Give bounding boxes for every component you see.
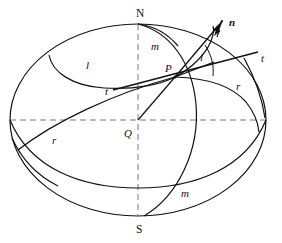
curve-l-left-arc [49,55,175,88]
curve-r-right-arc [175,77,259,132]
label-tangent-t-left: t [105,86,108,97]
point-P-marker [173,75,176,78]
label-curve-r-left: r [52,135,56,146]
sphere-right-rim-detail [244,58,265,118]
sphere-diagram-svg [0,0,282,243]
label-meridian-m-bottom: m [181,188,189,199]
curve-r-left-arc [18,77,175,150]
label-tangent-t-right: t [261,53,264,64]
normal-vector-n-shaft [175,25,219,77]
label-north-pole: N [136,8,144,20]
label-centre-Q: Q [124,128,132,139]
label-curve-l-left: l [86,60,89,71]
label-surface-point-P: P [165,63,172,74]
label-normal-vector-n: n [229,17,235,28]
label-south-pole: S [136,224,142,236]
label-curve-r-right: r [236,81,240,92]
label-curve-l-right: l [200,52,203,63]
label-meridian-m-top: m [151,41,159,52]
sphere-geometry-figure: N S Q P n t t l l r r m m [0,0,282,243]
